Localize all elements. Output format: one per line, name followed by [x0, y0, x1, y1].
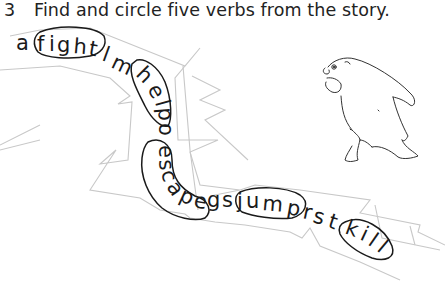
letter: u: [246, 189, 259, 213]
letter: s: [222, 188, 233, 212]
letter: o: [154, 123, 178, 136]
letter: i: [49, 32, 55, 56]
letter: t: [87, 36, 99, 61]
bear-icon: [323, 58, 418, 162]
letter: m: [262, 191, 284, 217]
verb-circles: [34, 27, 392, 259]
letter: p: [153, 106, 178, 121]
letter: g: [57, 33, 70, 57]
puzzle-scene: a f i g h t l m h e l p o e s c a p e g …: [0, 0, 445, 283]
letter: h: [73, 34, 88, 59]
letter: s: [311, 204, 328, 230]
letter: t: [325, 209, 340, 234]
crack-path-outline: [0, 28, 445, 280]
letter: e: [154, 145, 178, 158]
letter: a: [16, 31, 29, 55]
letter-string: a f i g h t l m h e l p o e s c a p e g …: [16, 31, 393, 258]
